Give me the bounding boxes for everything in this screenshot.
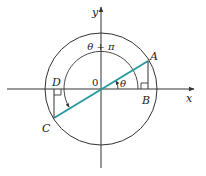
origin-label: 0 [92, 77, 98, 88]
theta-arc [116, 81, 118, 89]
x-axis-label: x [186, 92, 193, 105]
point-a-label: A [149, 50, 158, 63]
right-angle-b [141, 83, 148, 89]
point-b-label: B [141, 94, 150, 107]
theta-label: θ [120, 78, 126, 89]
point-d-label: D [51, 76, 61, 89]
right-angle-d [54, 89, 61, 95]
y-axis-label: y [91, 6, 99, 19]
theta-plus-pi-label: θ + π [87, 41, 115, 52]
unit-circle-diagram: y x 0 θ + π θ A B C D [0, 0, 206, 176]
point-c-label: C [42, 122, 51, 135]
